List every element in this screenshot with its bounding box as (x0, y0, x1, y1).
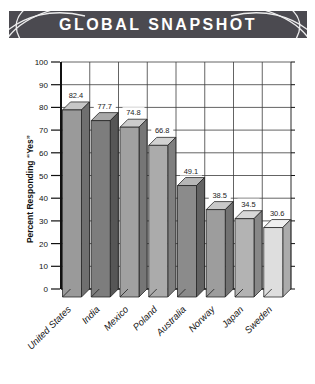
header-banner: GLOBAL SNAPSHOT (9, 11, 307, 38)
bar-side-norway (225, 202, 233, 297)
y-tick-label: 60 (39, 149, 48, 158)
value-label: 49.1 (184, 167, 199, 176)
value-label: 77.7 (97, 102, 112, 111)
bar-side-japan (254, 211, 262, 297)
bar-side-india (110, 113, 118, 297)
bar-front-sweden (264, 228, 283, 297)
x-axis-label-sweden: Sweden (242, 304, 274, 336)
bar-front-united-states (63, 110, 82, 297)
y-tick-label: 80 (39, 103, 48, 112)
bar-side-australia (197, 178, 205, 297)
x-axis-label-united-states: United States (25, 303, 73, 351)
bar-front-japan (235, 219, 254, 297)
y-tick-label: 70 (39, 126, 48, 135)
bar-side-united-states (82, 102, 90, 297)
bar-chart: Percent Responding “Yes” 010203040506070… (0, 38, 315, 384)
x-axis-label-mexico: Mexico (101, 304, 130, 333)
y-tick-label: 50 (39, 172, 48, 181)
value-label: 82.4 (69, 91, 84, 100)
value-label: 34.5 (241, 200, 256, 209)
bar-front-norway (206, 210, 225, 297)
y-tick-label: 0 (44, 285, 49, 294)
value-label: 74.8 (126, 108, 141, 117)
bar-front-australia (178, 186, 197, 297)
bar-side-mexico (139, 119, 147, 297)
bar-side-poland (168, 137, 176, 297)
bar-front-poland (149, 145, 168, 297)
y-tick-label: 30 (39, 217, 48, 226)
x-axis-label-japan: Japan (219, 304, 246, 331)
y-tick-label: 90 (39, 81, 48, 90)
page: GLOBAL SNAPSHOT Percent Responding “Yes”… (0, 0, 315, 384)
value-label: 30.6 (270, 209, 285, 218)
value-label: 66.8 (155, 126, 170, 135)
bar-side-sweden (283, 220, 291, 297)
y-tick-label: 100 (35, 58, 49, 67)
y-tick-label: 40 (39, 194, 48, 203)
y-tick-label: 10 (39, 262, 48, 271)
plot-area: 010203040506070809010082.4United States7… (0, 38, 315, 384)
x-axis-label-norway: Norway (186, 303, 217, 334)
y-tick-label: 20 (39, 240, 48, 249)
x-axis-label-australia: Australia (153, 304, 188, 339)
bar-front-india (91, 121, 110, 297)
x-axis-label-india: India (79, 304, 101, 326)
value-label: 38.5 (212, 191, 227, 200)
page-title: GLOBAL SNAPSHOT (9, 11, 307, 38)
bar-front-mexico (120, 127, 139, 297)
